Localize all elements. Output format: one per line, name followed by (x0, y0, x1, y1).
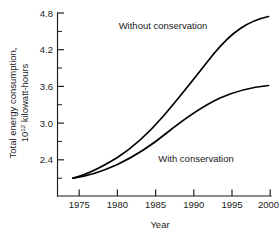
curve-with-conservation (73, 86, 269, 179)
x-tick-label-1975: 1975 (69, 199, 90, 210)
y-axis-title-line2: 1012 kilowatt-hours (19, 63, 31, 142)
annotation-without-conservation: Without conservation (119, 20, 208, 31)
annotation-with-conservation: With conservation (158, 153, 234, 164)
y-tick-label-4.2: 4.2 (40, 44, 53, 55)
chart-figure: 4.8 4.2 3.6 3.0 2.4 1975 1980 1985 1990 … (0, 0, 279, 240)
x-tick-label-1990: 1990 (183, 199, 204, 210)
x-tick-label-1995: 1995 (221, 199, 242, 210)
x-axis-major-ticks (79, 190, 270, 197)
y-axis-title-base: 10 (19, 132, 30, 143)
y-axis-minor-ticks (58, 31, 63, 178)
x-tick-label-2000: 2000 (258, 199, 279, 210)
y-tick-label-3.0: 3.0 (40, 118, 53, 129)
y-axis-title-line1: Total energy consumption, (7, 48, 18, 159)
y-tick-label-3.6: 3.6 (40, 81, 53, 92)
y-tick-label-2.4: 2.4 (40, 154, 53, 165)
x-axis-title: Year (150, 219, 169, 230)
y-axis-title: Total energy consumption, 1012 kilowatt-… (7, 48, 30, 159)
x-tick-label-1980: 1980 (107, 199, 128, 210)
y-axis-title-tail: kilowatt-hours (19, 63, 30, 124)
x-tick-label-1985: 1985 (145, 199, 166, 210)
y-tick-label-4.8: 4.8 (40, 8, 53, 19)
line-chart-svg: 4.8 4.2 3.6 3.0 2.4 1975 1980 1985 1990 … (0, 0, 279, 240)
y-axis-major-ticks (58, 13, 65, 160)
